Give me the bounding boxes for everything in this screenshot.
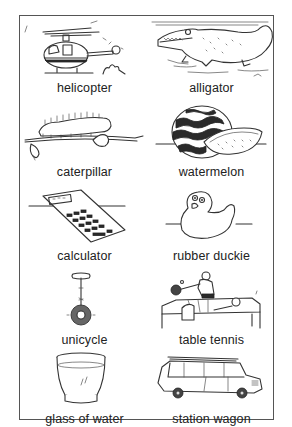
item-unicycle: unicycle <box>21 270 148 351</box>
item-label: watermelon <box>148 165 275 179</box>
unicycle-icon <box>21 270 148 332</box>
helicopter-icon <box>21 18 148 80</box>
glass-of-water-icon <box>21 349 148 411</box>
item-watermelon: watermelon <box>148 102 275 183</box>
table-tennis-icon <box>148 270 275 332</box>
station-wagon-icon <box>148 349 275 411</box>
item-label: helicopter <box>21 81 148 95</box>
worksheet-frame: helicopter alligator <box>19 15 274 420</box>
alligator-icon <box>148 18 275 80</box>
item-label: glass of water <box>21 412 148 426</box>
item-rubber-duckie: rubber duckie <box>148 186 275 267</box>
item-calculator: calculator <box>21 186 148 267</box>
item-glass-of-water: glass of water <box>21 349 148 427</box>
item-label: station wagon <box>148 412 275 426</box>
item-station-wagon: station wagon <box>148 349 275 427</box>
item-label: calculator <box>21 249 148 263</box>
rubber-duckie-icon <box>148 186 275 248</box>
item-alligator: alligator <box>148 18 275 99</box>
item-label: rubber duckie <box>148 249 275 263</box>
item-helicopter: helicopter <box>21 18 148 99</box>
calculator-icon <box>21 186 148 248</box>
item-table-tennis: table tennis <box>148 270 275 351</box>
item-label: caterpillar <box>21 165 148 179</box>
item-label: table tennis <box>148 333 275 347</box>
caterpillar-icon <box>21 102 148 164</box>
item-caterpillar: caterpillar <box>21 102 148 183</box>
watermelon-icon <box>148 102 275 164</box>
item-label: unicycle <box>21 333 148 347</box>
picture-grid: helicopter alligator <box>20 16 273 419</box>
item-label: alligator <box>148 81 275 95</box>
